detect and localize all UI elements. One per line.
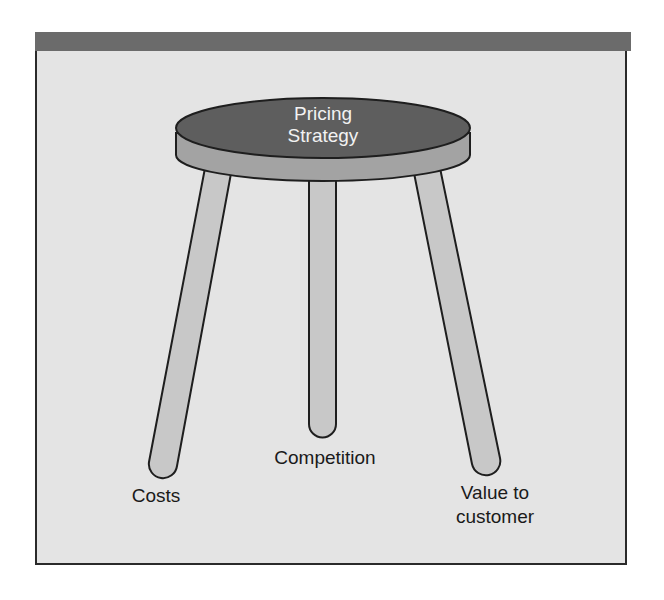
leg-costs bbox=[149, 168, 232, 478]
label-competition: Competition bbox=[265, 446, 385, 469]
stool-illustration bbox=[0, 0, 664, 600]
label-value-line2: customer bbox=[445, 505, 545, 528]
seat-label-line1: Pricing bbox=[273, 103, 373, 125]
leg-value bbox=[413, 168, 500, 475]
seat-label-line2: Strategy bbox=[273, 125, 373, 147]
label-value-line1: Value to bbox=[445, 481, 545, 504]
label-costs: Costs bbox=[116, 484, 196, 507]
leg-competition bbox=[309, 176, 336, 438]
